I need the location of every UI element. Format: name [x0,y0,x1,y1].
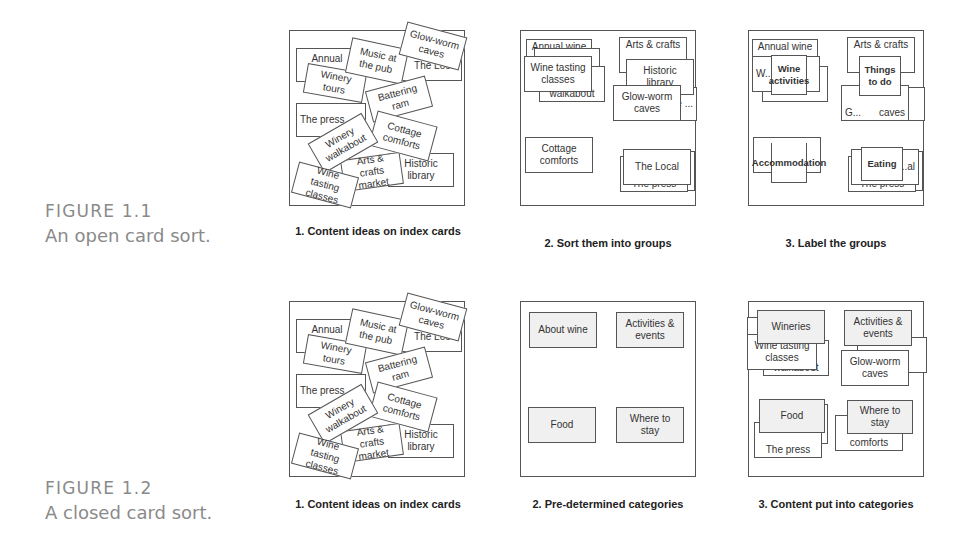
panel-frame-closed-2: About wine Activities & events Food Wher… [520,301,696,477]
category-card: Where to stay [616,407,684,443]
group-label-card: Eating [861,147,903,181]
panel-label: 2. Pre-determined categories [508,498,708,511]
card: Glow-worm caves [841,350,909,386]
figure-number: FIGURE 1.2 [45,478,212,498]
figure-1-2-caption: FIGURE 1.2 A closed card sort. [45,478,212,523]
figure-number: FIGURE 1.1 [45,201,211,221]
panel-frame-open-2: Annual wine Winery walkabout Wine tastin… [520,30,696,206]
card-fragment: G... [845,107,861,119]
category-card: Wineries [757,310,825,344]
panel-label: 3. Label the groups [736,237,936,250]
category-card: Food [759,399,825,433]
category-card: About wine [529,312,597,348]
card: Wine tasting classes [524,56,592,92]
panel-label: 1. Content ideas on index cards [278,498,478,511]
panel-frame-closed-3: walkabout Wine tasting classes Wineries … [748,301,924,477]
panel-frame-closed-1: Annual wine The press The Local Winery t… [289,301,465,477]
figure-1-1-caption: FIGURE 1.1 An open card sort. [45,201,211,246]
figure-title: A closed card sort. [45,502,212,523]
category-card: Where to stay [847,400,913,434]
card: The Local [623,149,691,185]
figure-title: An open card sort. [45,225,211,246]
panel-frame-open-3: Annual wine W... Wine activities Arts & … [748,30,924,206]
category-card: Activities & events [844,310,912,346]
panel-label: 1. Content ideas on index cards [278,225,478,238]
card: Glow-worm caves [613,85,681,121]
category-card: Food [528,407,596,443]
group-label-card: Things to do [859,56,901,96]
card-fragment: caves [879,107,905,119]
panel-frame-open-1: Annual wine The press The Local Winery t… [289,30,465,206]
card: Cottage comforts [525,137,593,173]
panel-label: 2. Sort them into groups [508,237,708,250]
panel-label: 3. Content put into categories [736,498,936,511]
group-label-card: Wine activities [771,55,807,95]
group-label-card: Accommodation [771,143,807,183]
category-card: Activities & events [616,312,684,348]
